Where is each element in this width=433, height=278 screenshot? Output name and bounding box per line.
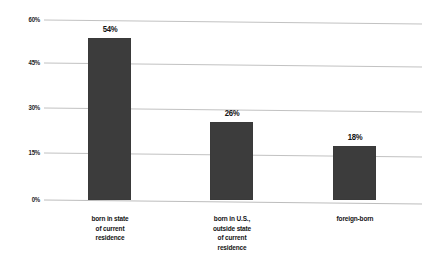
y-axis-tick-15: 15% [6,149,40,157]
category-line: of current [191,233,274,243]
plot-area: 60% 45% 30% 15% 0% 54% 26% 18% born in s… [0,0,433,278]
bar-born-in-us-outside-state [210,122,253,200]
bar-value-label-1: 54% [88,24,133,34]
category-line: foreign-born [314,214,397,224]
bar-born-in-state [88,38,131,200]
category-line: born in U.S., [191,214,274,224]
category-line: residence [69,233,152,243]
x-axis-category-label-1: born in state of current residence [69,214,152,243]
y-axis-tick-30: 30% [6,104,40,112]
y-axis-tick-0: 0% [6,196,40,204]
category-line: outside state [191,224,274,234]
y-axis-tick-45: 45% [6,59,40,67]
bar-value-label-2: 26% [210,108,255,118]
x-axis-category-label-2: born in U.S., outside state of current r… [191,214,274,252]
x-axis-category-label-3: foreign-born [314,214,397,224]
y-axis-tick-60: 60% [6,16,40,24]
category-line: born in state [69,214,152,224]
bar-foreign-born [333,146,376,200]
bar-chart: 60% 45% 30% 15% 0% 54% 26% 18% born in s… [0,0,433,278]
category-line: of current [69,224,152,234]
bar-value-label-3: 18% [333,132,378,142]
category-line: residence [191,243,274,253]
